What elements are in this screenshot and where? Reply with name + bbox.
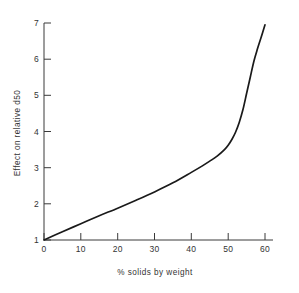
x-ticklabel-0: 0 [42,244,47,254]
y-ticklabel-6: 6 [34,54,39,64]
y-ticklabel-3: 3 [34,163,39,173]
y-ticklabel-1: 1 [34,235,39,245]
x-ticklabel-20: 20 [113,244,123,254]
y-ticklabel-2: 2 [34,199,39,209]
y-ticklabel-4: 4 [34,127,39,137]
chart-figure: 1 2 3 4 5 6 7 0 10 20 30 40 50 60 % soli… [0,0,299,293]
chart-svg: 1 2 3 4 5 6 7 0 10 20 30 40 50 60 % soli… [0,0,299,293]
y-ticklabel-5: 5 [34,90,39,100]
y-ticklabel-7: 7 [34,18,39,28]
x-ticklabel-10: 10 [76,244,86,254]
x-ticklabel-50: 50 [223,244,233,254]
x-ticklabel-40: 40 [186,244,196,254]
data-series-line [44,25,265,240]
y-axis-title: Effect on relative d50 [13,90,22,177]
x-axis-title: % solids by weight [117,268,193,277]
x-ticklabel-60: 60 [260,244,270,254]
x-ticklabel-30: 30 [150,244,160,254]
